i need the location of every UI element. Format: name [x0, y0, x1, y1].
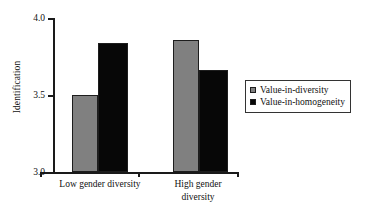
legend-item-value-in-diversity[interactable]: Value-in-diversity	[250, 84, 345, 96]
y-tick-label-4-0: 4.0	[33, 13, 45, 23]
y-tick-label-3-5: 3.5	[33, 90, 45, 100]
legend: Value-in-diversity Value-in-homogeneity	[245, 80, 351, 113]
x-category-label-high-line2: diversity	[138, 191, 258, 204]
y-axis-title: Identification	[12, 37, 22, 137]
legend-item-value-in-homogeneity[interactable]: Value-in-homogeneity	[250, 96, 345, 108]
x-tick-mark-right	[237, 172, 239, 177]
x-tick-mark-left	[40, 172, 42, 177]
y-tick-mark	[48, 172, 54, 174]
y-tick-mark	[48, 18, 54, 20]
plot-area: 3.0 3.5 4.0 Low gender diversity High ge…	[53, 18, 238, 172]
x-tick-mark-middle	[138, 172, 140, 177]
x-category-label-high: High gender diversity	[138, 178, 258, 203]
bar-low-value-in-diversity[interactable]	[72, 95, 98, 172]
x-category-label-high-line1: High gender	[138, 178, 258, 191]
bar-high-value-in-homogeneity[interactable]	[199, 70, 228, 172]
legend-swatch-black-icon	[250, 99, 256, 105]
bar-chart-figure: Identification 3.0 3.5 4.0 Low gender di…	[0, 0, 376, 210]
bar-low-value-in-homogeneity[interactable]	[98, 43, 128, 172]
legend-swatch-gray-icon	[250, 87, 256, 93]
y-tick-mark	[48, 95, 54, 97]
legend-label-value-in-diversity: Value-in-diversity	[260, 84, 329, 96]
legend-label-value-in-homogeneity: Value-in-homogeneity	[260, 96, 345, 108]
bar-high-value-in-diversity[interactable]	[173, 40, 199, 172]
